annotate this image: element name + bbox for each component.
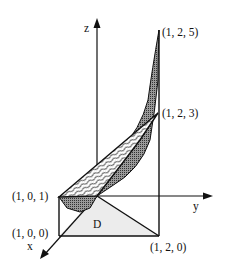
y-axis-arrow-icon (203, 193, 213, 200)
x-axis-label: x (27, 240, 33, 252)
point-label-1-0-1: (1, 0, 1) (12, 190, 49, 203)
point-label-1-2-3: (1, 2, 3) (162, 107, 199, 120)
point-label-1-2-5: (1, 2, 5) (162, 26, 199, 39)
y-axis-label: y (193, 200, 199, 213)
z-axis-arrow-icon (94, 18, 101, 28)
z-axis-label: z (84, 22, 89, 34)
point-label-1-0-0: (1, 0, 0) (12, 227, 49, 240)
point-label-1-2-0: (1, 2, 0) (150, 241, 187, 254)
region-d-label: D (93, 218, 101, 230)
diagram-canvas: z y x D (1, 0, 1) (1, 0, 0) (1, 2, 0) (1… (0, 0, 227, 273)
